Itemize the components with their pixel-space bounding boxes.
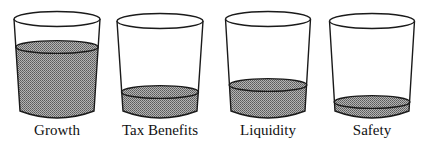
glass-label-liquidity: Liquidity	[240, 122, 296, 139]
glass-label-tax-benefits: Tax Benefits	[122, 122, 198, 139]
glass-liquidity	[226, 12, 311, 119]
liquid-fill	[16, 47, 99, 118]
liquid-surface	[121, 86, 198, 99]
glass-growth	[14, 12, 100, 119]
liquid-surface	[334, 96, 410, 109]
glass-rim	[14, 12, 100, 27]
glass-rim	[117, 14, 203, 29]
glass-label-safety: Safety	[353, 122, 391, 139]
glass-rim	[330, 14, 415, 29]
glass-tax-benefits	[117, 14, 203, 119]
liquid-surface	[229, 79, 307, 92]
glass-safety	[330, 14, 415, 119]
liquid-surface	[16, 41, 99, 54]
glass-label-growth: Growth	[34, 122, 80, 139]
glass-rim	[226, 12, 311, 27]
